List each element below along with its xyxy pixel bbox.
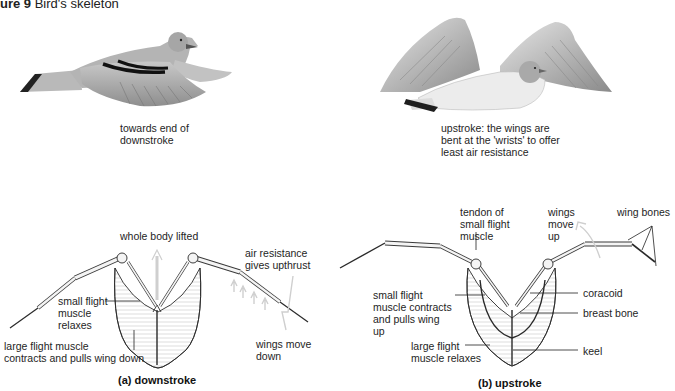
label-breast-bone: breast bone xyxy=(583,307,638,319)
label-coracoid: coracoid xyxy=(583,287,623,299)
label-whole-body-lifted: whole body lifted xyxy=(120,230,198,242)
label-tendon-small-flight-muscle: tendon of small flight muscle xyxy=(460,206,510,242)
downstroke-bird-caption: towards end of downstroke xyxy=(120,122,189,146)
label-keel: keel xyxy=(583,345,602,357)
label-wings-move-down: wings move down xyxy=(256,338,311,362)
caption-downstroke: (a) downstroke xyxy=(118,374,196,386)
label-small-flight-muscle-contracts: small flight muscle contracts and pulls … xyxy=(373,289,452,337)
label-wing-bones: wing bones xyxy=(617,206,670,218)
upstroke-bird-illustration xyxy=(380,18,612,112)
label-air-resistance: air resistance gives upthrust xyxy=(245,247,310,271)
downstroke-bird-illustration xyxy=(20,32,232,106)
upstroke-bird-caption: upstroke: the wings are bent at the 'wri… xyxy=(441,122,560,158)
caption-upstroke: (b) upstroke xyxy=(478,377,542,389)
label-large-flight-muscle-relaxes: large flight muscle relaxes xyxy=(411,340,481,364)
label-wings-move-up: wings move up xyxy=(548,206,575,242)
label-small-flight-muscle-relaxes: small flight muscle relaxes xyxy=(58,295,108,331)
label-large-flight-muscle-contracts: large flight muscle contracts and pulls … xyxy=(4,340,144,364)
flight-illustrations xyxy=(0,0,675,391)
